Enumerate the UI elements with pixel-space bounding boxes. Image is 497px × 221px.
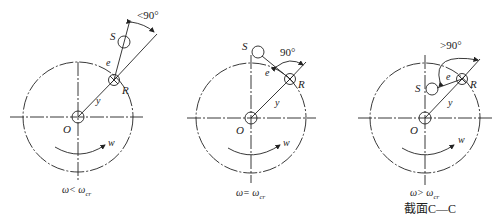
label-e: e — [106, 57, 111, 68]
label-R: R — [297, 78, 305, 90]
label-S: S — [242, 40, 248, 52]
deflection-y-line — [425, 79, 462, 118]
label-O: O — [410, 124, 418, 136]
caption-above-critical: ω> ωcr — [410, 187, 439, 201]
caption-at-critical: ω= ωcr — [236, 187, 265, 201]
extension-line — [462, 59, 480, 79]
label-R: R — [469, 78, 477, 90]
angle-label: <90° — [137, 9, 159, 21]
label-e: e — [446, 71, 451, 82]
mass-center-S — [252, 46, 264, 58]
angle-arc — [131, 22, 154, 32]
label-w: w — [108, 137, 115, 148]
rotation-arrow — [55, 145, 105, 154]
angle-label: >90° — [440, 39, 462, 51]
label-y: y — [447, 97, 453, 108]
label-R: R — [121, 84, 129, 96]
label-w: w — [458, 134, 465, 145]
mass-center-S — [426, 83, 438, 95]
panel-above-critical: >90° S e R y O w ω> ωcr 截面C—C — [358, 39, 492, 216]
label-S: S — [415, 82, 421, 94]
label-e: e — [265, 67, 270, 78]
section-label: 截面C—C — [404, 202, 456, 216]
panel-at-critical: 90° S e R y O w ω= ωcr — [187, 40, 316, 201]
label-y: y — [95, 95, 101, 106]
label-w: w — [283, 137, 290, 148]
angle-arc — [276, 61, 303, 67]
rotation-arrow — [228, 145, 280, 155]
label-O: O — [236, 124, 244, 136]
extension-line — [290, 62, 306, 79]
label-S: S — [110, 30, 116, 42]
panel-below-critical: <90° S e R y O w ω< ωcr — [10, 9, 159, 198]
label-y: y — [274, 97, 280, 108]
label-O: O — [63, 123, 71, 135]
caption-below-critical: ω< ωcr — [62, 184, 91, 198]
rotation-arrow — [402, 145, 454, 155]
angle-label: 90° — [280, 46, 295, 58]
deflection-y-line — [251, 79, 290, 118]
rotor-whirl-diagram: <90° S e R y O w ω< ωcr 90° S e R y O w … — [0, 0, 497, 221]
